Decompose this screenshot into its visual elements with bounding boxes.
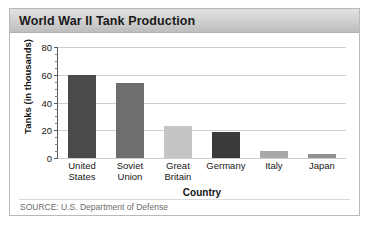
chart-title-bar: World War II Tank Production	[10, 9, 359, 33]
x-tick-line: United	[58, 160, 106, 171]
bar-japan	[308, 154, 337, 158]
x-tick-line: Germany	[202, 160, 250, 171]
plot-wrapper: Tanks (in thousands) 020406080 UnitedSta…	[10, 33, 359, 217]
x-tick-line: Soviet	[106, 160, 154, 171]
x-tick-line: Union	[106, 171, 154, 182]
chart-body: Tanks (in thousands) 020406080 UnitedSta…	[10, 33, 359, 217]
x-tick-line: Great	[154, 160, 202, 171]
chart-card: World War II Tank Production Tanks (in t…	[9, 8, 360, 216]
bar-slot	[58, 47, 106, 158]
bar-soviet-union	[116, 83, 145, 158]
x-tick-line: Italy	[250, 160, 298, 171]
x-tick-label: SovietUnion	[106, 160, 154, 182]
x-tick-line: Japan	[298, 160, 346, 171]
x-tick-label: Italy	[250, 160, 298, 182]
gridline	[58, 158, 346, 159]
y-tick-label: 80	[41, 42, 52, 53]
y-tick-label: 40	[41, 97, 52, 108]
y-axis-label: Tanks (in thousands)	[22, 32, 33, 142]
x-axis-label: Country	[58, 187, 346, 198]
bar-italy	[260, 151, 289, 158]
x-tick-label: GreatBritain	[154, 160, 202, 182]
x-tick-label: Japan	[298, 160, 346, 182]
bar-great-britain	[164, 126, 193, 158]
x-tick-label: UnitedStates	[58, 160, 106, 182]
bar-slot	[250, 47, 298, 158]
source-divider	[19, 199, 350, 200]
bar-slot	[154, 47, 202, 158]
x-tick-label: Germany	[202, 160, 250, 182]
bar-slot	[202, 47, 250, 158]
bar-united-states	[68, 75, 97, 158]
y-tick-label: 0	[47, 153, 52, 164]
page-title: World War II Tank Production	[10, 14, 195, 28]
x-tick-line: Britain	[154, 171, 202, 182]
source-note: SOURCE: U.S. Department of Defense	[20, 202, 168, 212]
bar-slot	[298, 47, 346, 158]
bar-series	[58, 47, 346, 158]
x-tick-line: States	[58, 171, 106, 182]
y-tick-major	[54, 158, 58, 159]
source-text: SOURCE: U.S. Department of Defense	[20, 202, 168, 212]
bar-germany	[212, 132, 241, 158]
plot-area: 020406080	[58, 47, 346, 158]
x-axis-tick-labels: UnitedStatesSovietUnionGreatBritainGerma…	[58, 160, 346, 182]
y-tick-label: 20	[41, 125, 52, 136]
y-tick-label: 60	[41, 69, 52, 80]
bar-slot	[106, 47, 154, 158]
